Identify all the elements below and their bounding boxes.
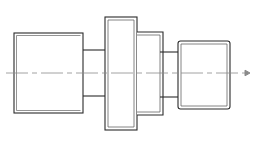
technical-drawing-canvas bbox=[0, 0, 256, 147]
feature-mid-body bbox=[137, 32, 163, 115]
centerline-arrow-icon bbox=[245, 70, 250, 76]
feature-center-flange bbox=[105, 17, 137, 130]
right-body-outline bbox=[178, 41, 230, 109]
mid-body-outline bbox=[137, 32, 163, 115]
engineering-drawing bbox=[0, 0, 256, 147]
center-flange-outline bbox=[105, 17, 137, 130]
feature-right-body bbox=[178, 41, 230, 109]
